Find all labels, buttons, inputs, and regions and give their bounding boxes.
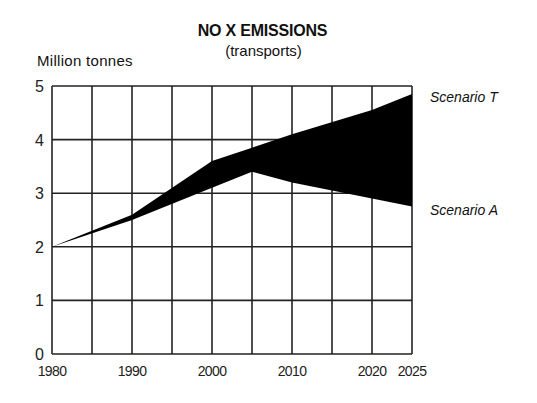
x-tick-label: 2010 — [278, 363, 308, 379]
series-label-scenario-a: Scenario A — [430, 202, 498, 218]
y-tick-label: 1 — [35, 292, 44, 309]
scenario-band — [52, 94, 412, 247]
x-tick-label: 2000 — [198, 363, 228, 379]
x-tick-label: 2025 — [398, 363, 428, 379]
y-tick-label: 3 — [35, 185, 44, 202]
y-tick-label: 0 — [35, 346, 44, 363]
y-tick-label: 4 — [35, 132, 44, 149]
chart-plot: 012345 198019902000201020202025 Scenario… — [0, 0, 537, 403]
x-tick-label: 1990 — [118, 363, 148, 379]
series-labels: Scenario TScenario A — [430, 89, 499, 218]
x-tick-label: 2020 — [358, 363, 388, 379]
y-tick-label: 2 — [35, 239, 44, 256]
y-tick-label: 5 — [35, 78, 44, 95]
x-axis-ticks: 198019902000201020202025 — [38, 363, 428, 379]
emissions-range-area — [52, 94, 412, 247]
x-tick-label: 1980 — [38, 363, 68, 379]
series-label-scenario-t: Scenario T — [430, 89, 499, 105]
y-axis-ticks: 012345 — [35, 78, 44, 363]
